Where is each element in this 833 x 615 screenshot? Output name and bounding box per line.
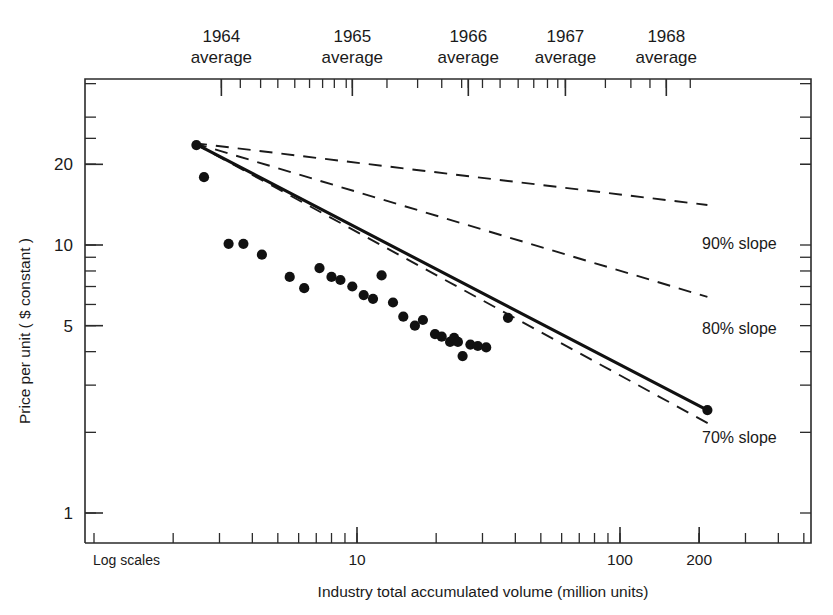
- top-axis-ticks: [221, 79, 690, 96]
- y-axis-title: Price per unit ( $ constant ): [16, 238, 33, 424]
- data-point: [453, 337, 463, 347]
- fitted-curve-line: [194, 143, 707, 410]
- y-axis-tick-label: 5: [64, 317, 73, 336]
- top-axis-year-label: 1967: [546, 27, 584, 46]
- slope-line-70-slope: [194, 143, 714, 427]
- y-axis-tick-labels: 201051: [54, 155, 73, 523]
- axis-titles: Industry total accumulated volume (milli…: [16, 238, 648, 600]
- x-axis-title: Industry total accumulated volume (milli…: [318, 583, 649, 600]
- top-axis-labels: 1964average1965average1966average1967ave…: [191, 27, 697, 67]
- fitted-experience-curve: [194, 143, 707, 410]
- data-point: [398, 312, 408, 322]
- slope-line-90-slope: [194, 143, 707, 205]
- data-point: [326, 272, 336, 282]
- data-point: [503, 313, 513, 323]
- data-point: [224, 239, 234, 249]
- data-point: [285, 272, 295, 282]
- data-point: [191, 140, 201, 150]
- data-point: [481, 342, 491, 352]
- top-axis-year-label: 1965: [333, 27, 371, 46]
- experience-curve-chart: 1964average1965average1966average1967ave…: [0, 0, 833, 615]
- data-point: [458, 351, 468, 361]
- data-point: [368, 294, 378, 304]
- slope-annotations: 90% slope80% slope70% slope: [702, 235, 777, 447]
- data-point: [359, 290, 369, 300]
- y-axis-tick-label: 1: [64, 504, 73, 523]
- data-point: [418, 315, 428, 325]
- data-point: [257, 250, 267, 260]
- data-point: [377, 270, 387, 280]
- top-axis-year-label: 1968: [647, 27, 685, 46]
- slope-line-80-slope: [194, 143, 707, 297]
- data-point: [335, 275, 345, 285]
- data-point: [199, 172, 209, 182]
- top-axis-average-label: average: [636, 48, 697, 67]
- y-axis-tick-label: 10: [54, 236, 73, 255]
- top-axis-average-label: average: [191, 48, 252, 67]
- data-point: [299, 283, 309, 293]
- top-axis-year-label: 1964: [202, 27, 240, 46]
- x-axis-tick-label: 100: [607, 551, 633, 568]
- top-axis-year-label: 1966: [449, 27, 487, 46]
- top-axis-average-label: average: [438, 48, 499, 67]
- data-point: [347, 281, 357, 291]
- data-point: [238, 239, 248, 249]
- chart-canvas: 1964average1965average1966average1967ave…: [0, 0, 833, 615]
- slope-label-70-slope: 70% slope: [702, 429, 777, 446]
- slope-label-90-slope: 90% slope: [702, 235, 777, 252]
- data-point: [702, 405, 712, 415]
- slope-reference-lines: [194, 143, 714, 427]
- slope-label-80-slope: 80% slope: [702, 320, 777, 337]
- x-axis-tick-labels: 10100200: [348, 551, 712, 568]
- x-axis-tick-label: 10: [348, 551, 366, 568]
- y-axis-tick-label: 20: [54, 155, 73, 174]
- log-scales-note-text: Log scales: [93, 552, 160, 568]
- data-point: [388, 297, 398, 307]
- top-axis-average-label: average: [535, 48, 596, 67]
- x-axis-tick-label: 200: [686, 551, 712, 568]
- x-axis-ticks: [94, 527, 804, 543]
- data-point: [314, 263, 324, 273]
- top-axis-average-label: average: [322, 48, 383, 67]
